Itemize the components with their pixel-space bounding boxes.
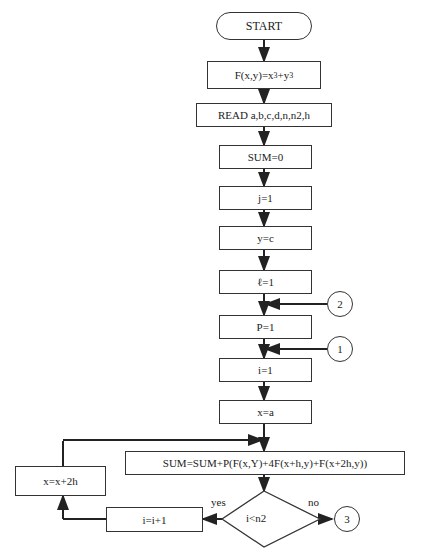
read-input-box: READ a,b,c,d,n,n2,h <box>196 103 332 127</box>
connector-3: 3 <box>334 506 360 532</box>
y-init-box: y=c <box>219 226 312 250</box>
x-init-box: x=a <box>219 400 312 424</box>
i-init-box: i=1 <box>219 358 312 382</box>
sum-init-box: SUM=0 <box>219 145 312 169</box>
i-increment-box: i=i+1 <box>106 507 203 532</box>
yes-label: yes <box>211 496 226 508</box>
decision-text: i<n2 <box>246 512 266 524</box>
sum-update-box: SUM=SUM+P(F(x,Y)+4F(x+h,y)+F(x+2h,y)) <box>125 451 405 475</box>
connector-2: 2 <box>327 291 353 317</box>
connector-1: 1 <box>327 336 353 362</box>
func-mid: +y <box>278 69 290 81</box>
func-prefix: F(x,y)=x <box>235 69 274 81</box>
decision-diamond <box>222 491 320 547</box>
no-label: no <box>308 496 319 508</box>
j-init-box: j=1 <box>219 186 312 210</box>
x-increment-box: x=x+2h <box>15 466 106 496</box>
l-init-box: ℓ=1 <box>219 270 312 294</box>
p-init-box: P=1 <box>219 315 312 339</box>
func-exp2: 3 <box>289 71 293 80</box>
start-terminal: START <box>216 12 312 40</box>
function-definition-box: F(x,y)=x3+y3 <box>207 61 321 89</box>
